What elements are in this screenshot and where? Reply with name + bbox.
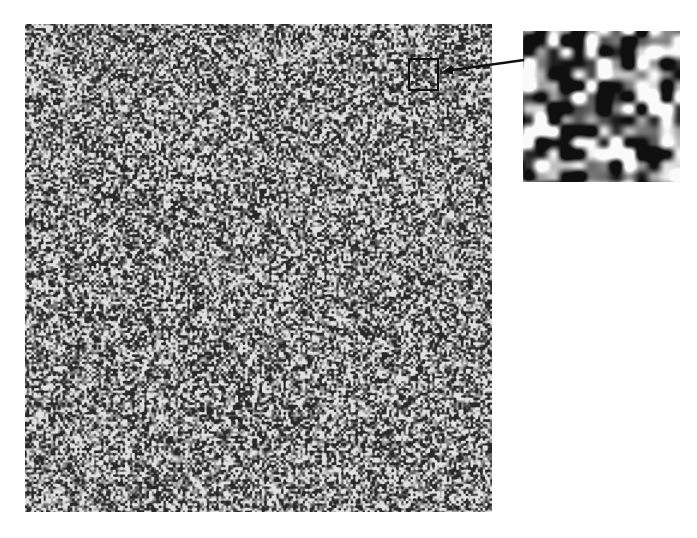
zoom-region-box — [408, 58, 439, 91]
magnified-inset-image — [523, 31, 680, 182]
speckle-pattern-image — [25, 24, 492, 512]
figure — [0, 0, 697, 538]
